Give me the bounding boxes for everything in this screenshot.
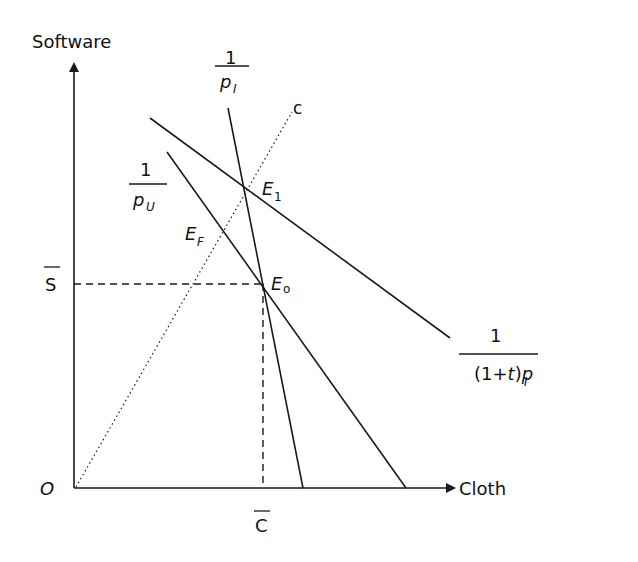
svg-text:p: p [132, 189, 144, 210]
x-axis-label: Cloth [459, 478, 506, 499]
svg-text:1: 1 [490, 325, 501, 346]
pu-line-label: 1 p U [129, 159, 167, 214]
origin-label: O [40, 478, 54, 499]
trade-diagram: Software Cloth O S C c 1 p I 1 (1+t)p I … [0, 0, 638, 562]
svg-text:1: 1 [225, 47, 236, 68]
svg-text:U: U [146, 200, 155, 214]
svg-text:F: F [197, 235, 205, 249]
s-bar-label: S [45, 274, 56, 295]
c-ray-label: c [293, 98, 302, 118]
pu-price-line [167, 152, 406, 488]
point-e1-label: E 1 [262, 178, 282, 204]
svg-text:1: 1 [140, 159, 151, 180]
steep-line-label: 1 p I [215, 47, 249, 96]
svg-text:E: E [262, 178, 274, 199]
svg-text:o: o [283, 282, 290, 296]
svg-text:I: I [524, 375, 528, 389]
svg-text:p: p [219, 71, 231, 92]
tax-line-label: 1 (1+t)p I [459, 325, 538, 389]
point-ef-label: E F [185, 223, 205, 249]
point-e0-label: E o [271, 273, 290, 296]
svg-text:I: I [233, 82, 237, 96]
svg-text:E: E [185, 223, 197, 244]
svg-text:1: 1 [274, 190, 282, 204]
svg-text:E: E [271, 273, 283, 294]
c-bar-label: C [255, 515, 268, 536]
y-axis-label: Software [32, 31, 111, 52]
steep-price-line [228, 108, 303, 488]
c-ray-line [76, 112, 292, 487]
